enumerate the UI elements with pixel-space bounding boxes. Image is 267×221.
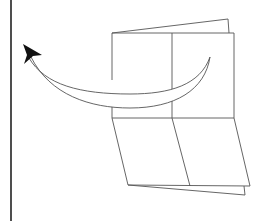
back-flap-top [112,19,229,33]
back-flap-bottom [128,185,245,195]
bottom-panel-skewed [112,118,250,186]
arrow-body [29,57,210,108]
folding-diagram [0,0,267,221]
curved-arrow [23,44,210,108]
